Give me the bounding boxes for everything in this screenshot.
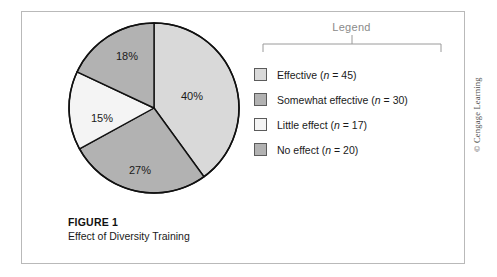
legend-swatch [254,118,267,131]
figure-caption: FIGURE 1 Effect of Diversity Training [68,215,328,244]
figure-caption-title: FIGURE 1 [68,215,328,229]
legend-swatch [254,93,267,106]
legend-entries: Effective (n = 45)Somewhat effective (n … [254,62,449,162]
pie-slices [69,23,239,193]
legend-entry-label: Effective (n = 45) [277,69,357,81]
pie-slice-label: 27% [129,164,151,176]
pie-slice-label: 18% [116,50,138,62]
legend-entry: Effective (n = 45) [254,62,449,87]
figure-caption-subtitle: Effect of Diversity Training [68,229,328,244]
legend-entry: No effect (n = 20) [254,137,449,162]
pie-slice-label: 15% [91,112,113,124]
legend-entry: Little effect (n = 17) [254,112,449,137]
figure-frame: 40%27%15%18% FIGURE 1 Effect of Diversit… [21,11,465,264]
legend-entry-label: Little effect (n = 17) [277,119,367,131]
legend-swatch [254,143,267,156]
pie-slice-label: 40% [181,90,203,102]
legend-entry-label: No effect (n = 20) [277,144,358,156]
pie-chart: 40%27%15%18% [67,21,241,195]
legend-entry: Somewhat effective (n = 30) [254,87,449,112]
legend-swatch [254,68,267,81]
copyright-notice: © Cengage Learning [472,32,482,152]
legend-entry-label: Somewhat effective (n = 30) [277,94,408,106]
legend-title: Legend [254,20,449,34]
legend-bracket-icon [262,35,442,53]
pie-chart-svg: 40%27%15%18% [67,21,241,195]
legend: Legend Effective (n = 45)Somewhat effect… [254,20,449,162]
